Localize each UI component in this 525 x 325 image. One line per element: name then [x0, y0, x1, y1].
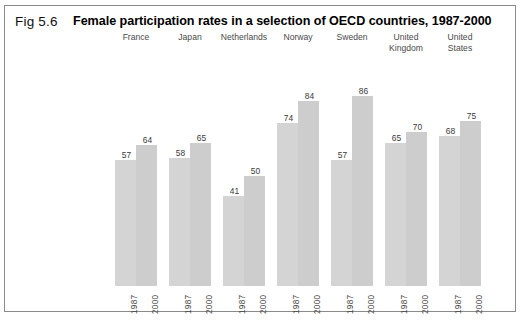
figure-frame: Fig 5.6 Female participation rates in a …	[4, 5, 516, 312]
year-tick-2000: 2000	[421, 295, 430, 314]
country-group: France571987642000	[109, 32, 163, 311]
bar-value-label: 86	[350, 86, 377, 96]
year-tick-2000: 2000	[475, 295, 484, 314]
year-tick-2000: 2000	[151, 295, 160, 314]
bar-value-label: 70	[404, 122, 431, 132]
bar-united-kingdom-1987	[385, 142, 406, 286]
bar-value-label: 75	[458, 111, 485, 121]
country-group: United States681987752000	[433, 32, 487, 311]
bar-japan-2000	[190, 142, 211, 286]
bar-pair: 571987642000	[109, 32, 163, 311]
bar-netherlands-1987	[223, 195, 244, 286]
bar-value-label: 84	[296, 91, 323, 101]
bar-pair: 581987652000	[163, 32, 217, 311]
figure-number: Fig 5.6	[15, 14, 58, 29]
year-tick-1987: 1987	[400, 295, 409, 314]
bar-united-kingdom-2000	[406, 131, 427, 286]
country-group: Sweden571987862000	[325, 32, 379, 311]
year-tick-1987: 1987	[346, 295, 355, 314]
bar-france-1987	[115, 159, 136, 286]
bar-france-2000	[136, 144, 157, 286]
bar-japan-1987	[169, 157, 190, 286]
year-tick-1987: 1987	[454, 295, 463, 314]
year-tick-2000: 2000	[367, 295, 376, 314]
year-tick-2000: 2000	[205, 295, 214, 314]
chart-title: Female participation rates in a selectio…	[73, 14, 503, 28]
year-tick-1987: 1987	[238, 295, 247, 314]
bar-value-label: 65	[188, 133, 215, 143]
bar-netherlands-2000	[244, 175, 265, 286]
bar-pair: 681987752000	[433, 32, 487, 311]
chart-plot-area: France571987642000Japan581987652000Nethe…	[5, 32, 515, 311]
country-group: Netherlands411987502000	[217, 32, 271, 311]
bar-norway-1987	[277, 122, 298, 286]
year-tick-1987: 1987	[184, 295, 193, 314]
country-group: Norway741987842000	[271, 32, 325, 311]
bar-united-states-1987	[439, 135, 460, 286]
bar-norway-2000	[298, 100, 319, 286]
bar-value-label: 50	[242, 166, 269, 176]
bar-sweden-1987	[331, 159, 352, 286]
bar-pair: 571987862000	[325, 32, 379, 311]
year-tick-1987: 1987	[292, 295, 301, 314]
bar-sweden-2000	[352, 95, 373, 286]
country-group: Japan581987652000	[163, 32, 217, 311]
year-tick-2000: 2000	[313, 295, 322, 314]
year-tick-1987: 1987	[130, 295, 139, 314]
bar-value-label: 64	[134, 135, 161, 145]
year-tick-2000: 2000	[259, 295, 268, 314]
bar-pair: 651987702000	[379, 32, 433, 311]
bar-pair: 741987842000	[271, 32, 325, 311]
country-group: United Kingdom651987702000	[379, 32, 433, 311]
bar-pair: 411987502000	[217, 32, 271, 311]
bar-united-states-2000	[460, 120, 481, 287]
